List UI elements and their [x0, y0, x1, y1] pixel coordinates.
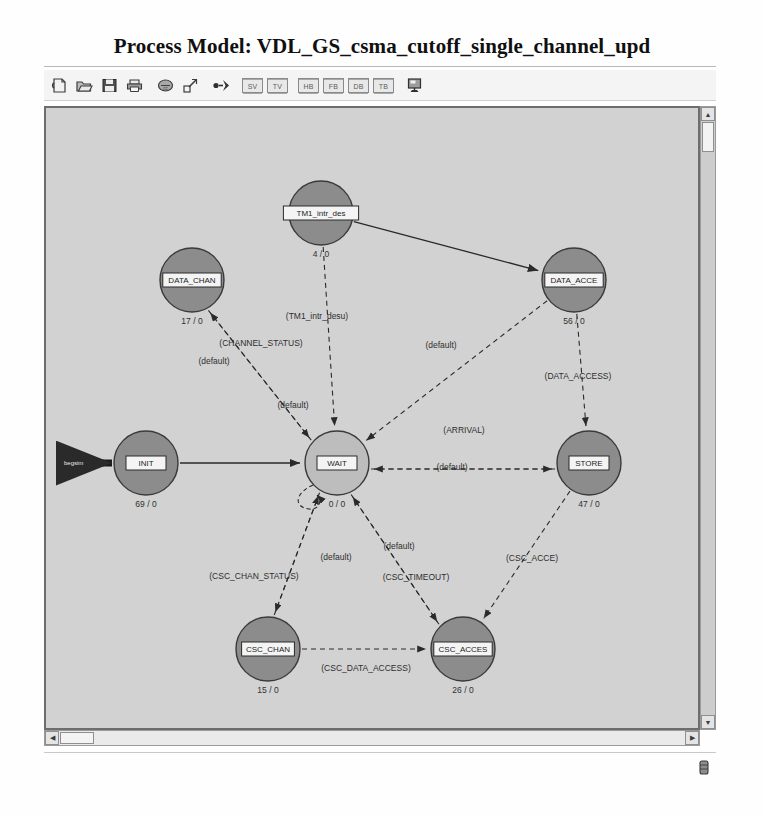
state-node-label: INIT	[138, 459, 153, 468]
termination-block-button[interactable]: TB	[372, 74, 395, 96]
temporary-variables-button-label: TV	[267, 78, 288, 93]
state-node-count: 69 / 0	[135, 499, 157, 509]
scroll-down-button[interactable]: ▼	[701, 715, 715, 729]
vertical-scrollbar[interactable]: ▲ ▼	[700, 106, 716, 730]
state-variables-button-label: SV	[242, 78, 263, 93]
edge-label: (CHANNEL_STATUS)	[219, 338, 302, 348]
print-model-icon[interactable]	[123, 74, 146, 96]
state-variables-button[interactable]: SV	[241, 74, 264, 96]
state-node-count: 47 / 0	[578, 499, 600, 509]
model-attributes-button[interactable]	[403, 74, 426, 96]
save-model-icon[interactable]	[98, 74, 121, 96]
scroll-up-button[interactable]: ▲	[701, 107, 715, 121]
state-node-count: 0 / 0	[329, 499, 346, 509]
edge-label: (default)	[436, 462, 467, 472]
state-node-label: TM1_intr_des	[297, 209, 346, 218]
resize-grip-icon[interactable]	[696, 759, 712, 777]
edge-label: (DATA_ACCESS)	[545, 371, 612, 381]
state-node-label: STORE	[575, 459, 602, 468]
node-layer: TM1_intr_des4 / 0DATA_CHAN17 / 0DATA_ACC…	[114, 181, 621, 695]
process-model-window: Process Model: VDL_GS_csma_cutoff_single…	[0, 0, 764, 815]
vertical-scroll-thumb[interactable]	[702, 122, 714, 152]
state-node-label: DATA_CHAN	[168, 276, 215, 285]
state-node-label: WAIT	[327, 459, 347, 468]
state-transition-diagram: begsim TM1_intr_des4 / 0DATA_CHAN17 / 0D…	[46, 108, 698, 728]
edge-label: (default)	[320, 552, 351, 562]
termination-block-button-label: TB	[373, 78, 394, 93]
edge-label: (CSC_DATA_ACCESS)	[321, 663, 411, 673]
titlebar: Process Model: VDL_GS_csma_cutoff_single…	[0, 28, 764, 64]
state-node-count: 17 / 0	[181, 316, 203, 326]
state-node[interactable]: CSC_CHAN15 / 0	[236, 617, 300, 695]
scroll-right-button[interactable]: ▶	[685, 731, 699, 745]
model-editor-frame: begsim TM1_intr_des4 / 0DATA_CHAN17 / 0D…	[44, 106, 716, 746]
state-node-label: CSC_CHAN	[246, 645, 290, 654]
status-bar	[44, 752, 716, 786]
state-node-count: 26 / 0	[452, 685, 474, 695]
header-block-button-label: HB	[298, 78, 319, 93]
edge-label: (CSC_ACCE)	[506, 553, 558, 563]
function-block-button-label: FB	[323, 78, 344, 93]
toolbar-divider	[44, 100, 716, 101]
header-block-button[interactable]: HB	[297, 74, 320, 96]
edge-label: (TM1_intr_desu)	[286, 311, 349, 321]
scroll-left-button[interactable]: ◀	[45, 731, 59, 745]
diagnostic-block-button-label: DB	[348, 78, 369, 93]
state-node-count: 4 / 0	[313, 249, 330, 259]
state-node[interactable]: DATA_CHAN17 / 0	[160, 248, 224, 326]
edge-label: (ARRIVAL)	[443, 425, 485, 435]
function-block-button[interactable]: FB	[322, 74, 345, 96]
compile-icon[interactable]: cc	[154, 74, 177, 96]
state-node-count: 15 / 0	[257, 685, 279, 695]
svg-text:begsim: begsim	[64, 460, 83, 466]
state-node[interactable]: TM1_intr_des4 / 0	[283, 181, 358, 259]
state-node[interactable]: DATA_ACCE56 / 0	[542, 248, 606, 326]
svg-text:cc: cc	[163, 85, 168, 90]
edge-label: (default)	[383, 541, 414, 551]
state-node-label: DATA_ACCE	[551, 276, 598, 285]
title-divider	[44, 66, 716, 67]
diagnostic-block-button[interactable]: DB	[347, 74, 370, 96]
edge-label: (default)	[425, 340, 456, 350]
process-model-canvas[interactable]: begsim TM1_intr_des4 / 0DATA_CHAN17 / 0D…	[44, 106, 700, 730]
page-title: Process Model: VDL_GS_csma_cutoff_single…	[114, 34, 650, 59]
state-node-count: 56 / 0	[563, 316, 585, 326]
toolbar: cc SV TV HB	[44, 70, 716, 100]
new-model-icon[interactable]	[48, 74, 71, 96]
state-node[interactable]: WAIT0 / 0	[305, 431, 369, 509]
edge-label: (CSC_CHAN_STATUS)	[209, 571, 299, 581]
edge-label: (CSC_TIMEOUT)	[383, 572, 450, 582]
state-node[interactable]: CSC_ACCES26 / 0	[431, 617, 495, 695]
horizontal-scroll-thumb[interactable]	[60, 732, 94, 744]
zoom-expand-icon[interactable]	[179, 74, 202, 96]
edge-label: (default)	[198, 356, 229, 366]
create-transition-icon[interactable]	[210, 74, 233, 96]
state-node[interactable]: INIT69 / 0	[114, 431, 178, 509]
state-node[interactable]: STORE47 / 0	[557, 431, 621, 509]
open-model-icon[interactable]	[73, 74, 96, 96]
edge-label: (default)	[277, 400, 308, 410]
temporary-variables-button[interactable]: TV	[266, 74, 289, 96]
horizontal-scrollbar[interactable]: ◀ ▶	[44, 730, 700, 746]
state-node-label: CSC_ACCES	[439, 645, 488, 654]
